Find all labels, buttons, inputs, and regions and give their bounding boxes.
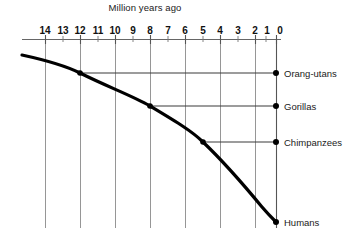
axis-tick-label-5: 5 — [195, 25, 211, 37]
taxon-label-gorillas: Gorillas — [284, 101, 316, 112]
axis-tick-label-9: 9 — [125, 25, 141, 37]
axis-tick-label-10: 10 — [107, 25, 123, 37]
axis-tick-label-4: 4 — [212, 25, 228, 37]
dot-chimpanzees — [273, 139, 279, 145]
node-chimpanzees — [200, 139, 206, 145]
node-gorillas — [147, 103, 153, 109]
dot-gorillas — [273, 103, 279, 109]
axis-tick-label-7: 7 — [160, 25, 176, 37]
axis-tick-label-14: 14 — [37, 25, 53, 37]
axis-tick-label-12: 12 — [72, 25, 88, 37]
node-orang-utans — [77, 70, 83, 76]
taxon-label-orang-utans: Orang-utans — [284, 68, 337, 79]
dot-orang-utans — [273, 70, 279, 76]
dot-humans — [273, 219, 279, 225]
axis-tick-label-8: 8 — [142, 25, 158, 37]
gridlines — [46, 39, 256, 228]
axis-tick-label-6: 6 — [177, 25, 193, 37]
axis-tick-label-11: 11 — [90, 25, 106, 37]
phylogeny-chart: Million years ago — [0, 0, 359, 244]
taxon-label-chimpanzees: Chimpanzees — [284, 137, 342, 148]
taxon-label-humans: Humans — [284, 217, 319, 228]
axis-tick-label-0: 0 — [272, 25, 288, 37]
branch-connectors — [80, 73, 276, 142]
axis-tick-label-13: 13 — [55, 25, 71, 37]
lineage-curve — [22, 55, 276, 222]
axis-tick-label-3: 3 — [230, 25, 246, 37]
